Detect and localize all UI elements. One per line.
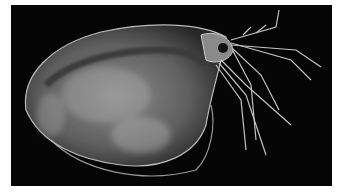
daphnia-illustration — [11, 5, 332, 186]
daphnia-photo — [11, 5, 332, 186]
